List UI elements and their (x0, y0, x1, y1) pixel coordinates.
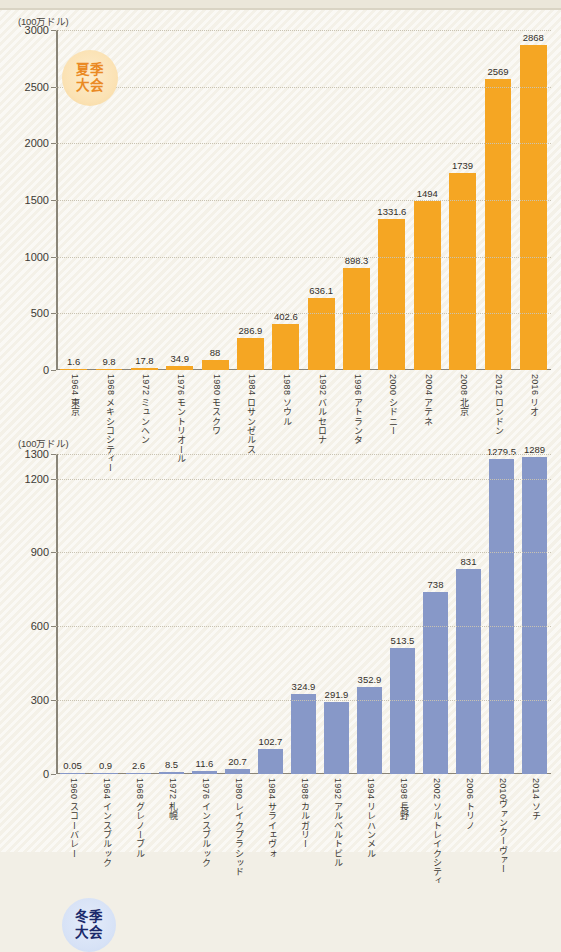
category-label-slot: 1998 長野 (386, 778, 419, 878)
y-axis-tick-label: 500 (31, 307, 49, 319)
category-label-slot: 1968 グレノーブル (122, 778, 155, 878)
winter-bars-layer: 0.050.92.68.511.620.7102.7324.9291.9352.… (56, 454, 551, 774)
y-axis-tick (51, 370, 56, 371)
bar[interactable] (456, 569, 481, 774)
bar[interactable] (166, 366, 193, 370)
bar[interactable] (93, 773, 118, 774)
category-label-slot: 2002 ソルトレイクシティ (419, 778, 452, 878)
bar-value-label: 11.6 (196, 758, 214, 769)
bar[interactable] (449, 173, 476, 370)
category-label: 1976 インスブルック (199, 778, 210, 878)
y-axis-tick (51, 700, 56, 701)
y-axis-tick-label: 3000 (25, 24, 49, 36)
bar[interactable] (126, 773, 151, 774)
y-axis-tick (51, 30, 56, 31)
category-label-slot: 1964 インスブルック (89, 778, 122, 878)
category-label: 1960 スコーバレー (67, 778, 78, 878)
bar-slot: 831 (452, 454, 485, 774)
summer-games-chart: (100万ドル) 1.69.817.834.988286.9402.6636.1… (0, 14, 561, 434)
bar-slot: 11.6 (188, 454, 221, 774)
bar-value-label: 1331.6 (377, 206, 406, 217)
bar[interactable] (390, 648, 415, 774)
category-label-slot: 1976 インスブルック (188, 778, 221, 878)
bar[interactable] (225, 769, 250, 774)
bar[interactable] (60, 773, 85, 774)
winter-games-badge: 冬季 大会 (62, 898, 116, 952)
bar-value-label: 1279.5 (487, 446, 516, 457)
bar-slot: 738 (419, 454, 452, 774)
bar[interactable] (258, 749, 283, 774)
bar[interactable] (308, 298, 335, 370)
bar-slot: 20.7 (221, 454, 254, 774)
category-label-slot: 2006 トリノ (452, 778, 485, 878)
bar-value-label: 1.6 (67, 356, 80, 367)
category-label: 2006 トリノ (463, 778, 474, 878)
gridline (56, 454, 551, 455)
bar[interactable] (522, 457, 547, 774)
y-axis-tick (51, 774, 56, 775)
bar[interactable] (520, 45, 547, 370)
category-label: 2002 ソルトレイクシティ (430, 778, 441, 878)
bar-slot: 2.6 (122, 454, 155, 774)
y-axis-tick (51, 552, 56, 553)
y-axis-tick-label: 900 (31, 546, 49, 558)
bar-value-label: 831 (461, 556, 477, 567)
bar-value-label: 2868 (523, 32, 544, 43)
winter-category-labels: 1960 スコーバレー1964 インスブルック1968 グレノーブル1972 札… (56, 778, 551, 878)
y-axis-tick-label: 0 (43, 364, 49, 376)
gridline (56, 552, 551, 553)
y-axis-tick-label: 1200 (25, 473, 49, 485)
y-axis-tick-label: 1500 (25, 194, 49, 206)
category-label: 1964 インスブルック (100, 778, 111, 878)
summer-badge-line-1: 夏季 (76, 62, 104, 78)
category-label: 1984 サライェヴォ (265, 778, 276, 878)
bar[interactable] (202, 360, 229, 370)
bar[interactable] (378, 219, 405, 370)
bar-value-label: 8.5 (165, 759, 178, 770)
bar[interactable] (324, 702, 349, 774)
bar[interactable] (237, 338, 264, 371)
bar-slot: 102.7 (254, 454, 287, 774)
category-label-slot: 1972 札幌 (155, 778, 188, 878)
gridline (56, 257, 551, 258)
category-label-slot: 1994 リレハンメル (353, 778, 386, 878)
bar[interactable] (423, 592, 448, 774)
bar-value-label: 513.5 (391, 635, 415, 646)
bar[interactable] (485, 79, 512, 370)
bar[interactable] (343, 268, 370, 370)
bar[interactable] (414, 201, 441, 370)
bar-value-label: 20.7 (228, 756, 247, 767)
summer-badge-line-2: 大会 (76, 78, 104, 94)
bar-value-label: 738 (428, 579, 444, 590)
bar[interactable] (96, 369, 123, 370)
category-label: 1980 レイクプラシッド (232, 778, 243, 878)
bar[interactable] (291, 694, 316, 774)
bar-value-label: 291.9 (325, 689, 349, 700)
y-axis-tick-label: 2000 (25, 137, 49, 149)
gridline (56, 626, 551, 627)
bar[interactable] (131, 368, 158, 370)
y-axis-tick (51, 313, 56, 314)
category-label: 1994 リレハンメル (364, 778, 375, 878)
gridline (56, 143, 551, 144)
bar[interactable] (60, 369, 87, 370)
gridline (56, 313, 551, 314)
gridline (56, 200, 551, 201)
category-label: 1968 グレノーブル (133, 778, 144, 878)
y-axis-tick-label: 2500 (25, 81, 49, 93)
bar-slot: 1289 (518, 454, 551, 774)
bar[interactable] (272, 324, 299, 370)
category-label-slot: 1960 スコーバレー (56, 778, 89, 878)
bar[interactable] (192, 771, 217, 774)
bar-value-label: 2569 (487, 66, 508, 77)
winter-plot-area: 0.050.92.68.511.620.7102.7324.9291.9352.… (56, 454, 551, 774)
y-axis-tick-label: 300 (31, 694, 49, 706)
bar[interactable] (159, 772, 184, 774)
y-axis-tick-label: 1300 (25, 448, 49, 460)
category-label: 1988 カルガリー (298, 778, 309, 878)
bar-value-label: 102.7 (259, 736, 283, 747)
y-axis-tick (51, 257, 56, 258)
bar-value-label: 0.9 (99, 760, 112, 771)
y-axis-tick-label: 0 (43, 768, 49, 780)
bar[interactable] (489, 459, 514, 774)
